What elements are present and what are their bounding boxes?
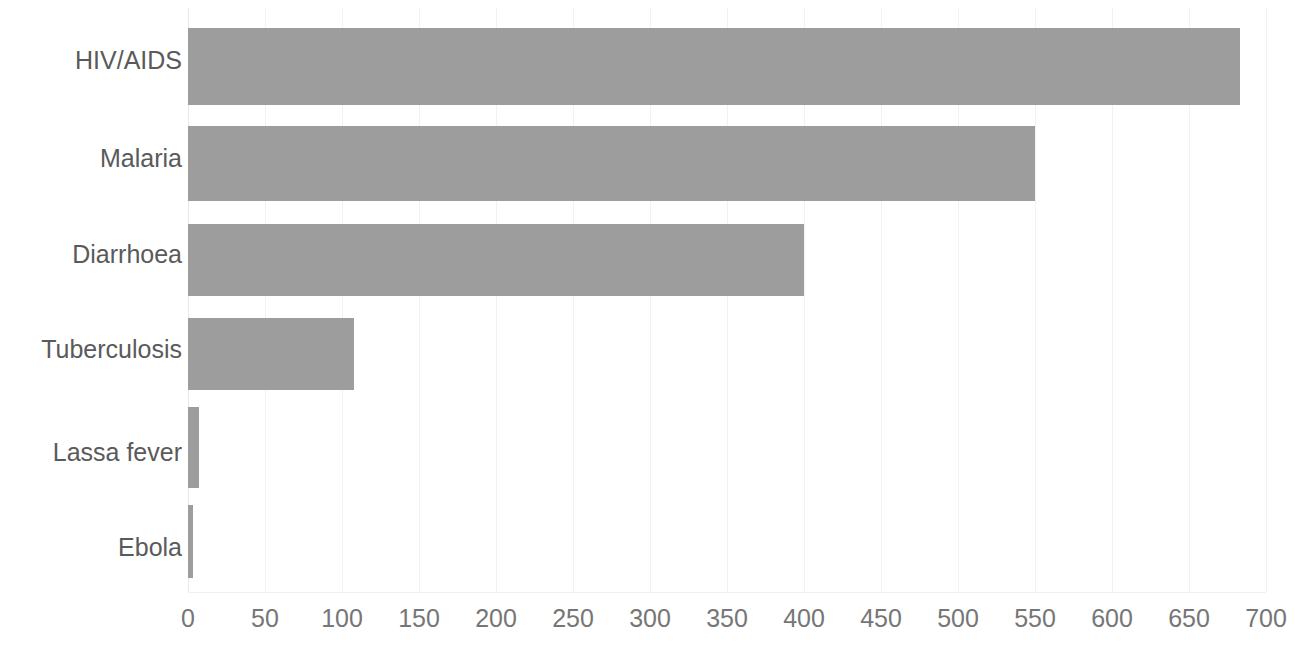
bar-ebola[interactable] — [188, 505, 193, 578]
x-axis-baseline — [188, 592, 1266, 593]
bar-malaria[interactable] — [188, 126, 1035, 201]
x-tick-label-150: 150 — [398, 606, 440, 631]
x-tick-label-300: 300 — [629, 606, 671, 631]
bar-row — [188, 126, 1266, 201]
x-tick-label-550: 550 — [1014, 606, 1056, 631]
bar-tuberculosis[interactable] — [188, 318, 354, 390]
x-tick-label-200: 200 — [475, 606, 517, 631]
category-label-lassa-fever: Lassa fever — [53, 440, 182, 465]
category-label-hiv-aids: HIV/AIDS — [75, 48, 182, 73]
x-tick-label-400: 400 — [783, 606, 825, 631]
category-label-tuberculosis: Tuberculosis — [41, 337, 182, 362]
bar-row — [188, 505, 1266, 578]
bar-row — [188, 224, 1266, 296]
bar-row — [188, 318, 1266, 390]
x-tick-label-50: 50 — [251, 606, 279, 631]
x-tick-label-700: 700 — [1245, 606, 1287, 631]
x-tick-label-500: 500 — [937, 606, 979, 631]
category-label-diarrhoea: Diarrhoea — [72, 242, 182, 267]
x-tick-label-600: 600 — [1091, 606, 1133, 631]
x-tick-label-100: 100 — [321, 606, 363, 631]
x-tick-label-450: 450 — [860, 606, 902, 631]
bar-chart: HIV/AIDSMalariaDiarrhoeaTuberculosisLass… — [0, 0, 1295, 660]
category-label-malaria: Malaria — [100, 146, 182, 171]
x-tick-label-250: 250 — [552, 606, 594, 631]
bar-hiv-aids[interactable] — [188, 28, 1240, 105]
category-label-ebola: Ebola — [118, 535, 182, 560]
bar-row — [188, 407, 1266, 488]
x-tick-label-0: 0 — [181, 606, 195, 631]
x-tick-label-350: 350 — [706, 606, 748, 631]
bar-diarrhoea[interactable] — [188, 224, 804, 296]
bar-lassa-fever[interactable] — [188, 407, 199, 488]
bar-row — [188, 28, 1266, 105]
x-tick-label-650: 650 — [1168, 606, 1210, 631]
gridline-700 — [1266, 8, 1267, 592]
